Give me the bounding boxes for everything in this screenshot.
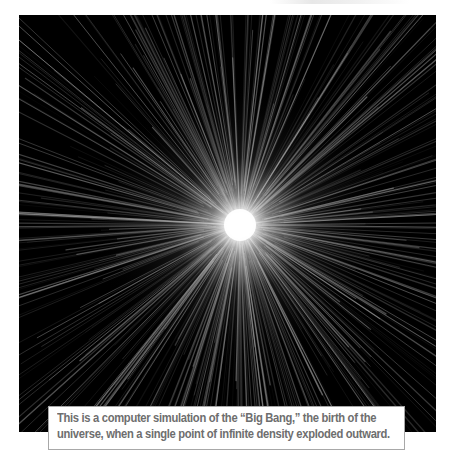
figure-caption: This is a computer simulation of the “Bi… [57, 410, 407, 442]
starburst-graphic [19, 15, 436, 432]
big-bang-simulation-image [19, 15, 436, 432]
figure-caption-box: This is a computer simulation of the “Bi… [48, 406, 405, 450]
previous-text-line-remnant [270, 0, 410, 4]
